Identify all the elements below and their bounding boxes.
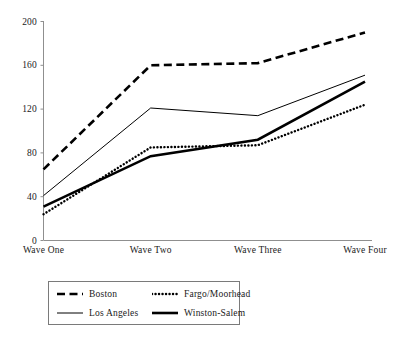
x-axis-tick-label: Wave Two (106, 245, 196, 256)
legend-entry-winston-salem: Winston-Salem (152, 306, 245, 320)
series-line-los-angeles (44, 75, 366, 195)
y-axis-tick-label: 120 (11, 104, 37, 114)
legend-swatch-icon (152, 307, 178, 319)
legend-entry-los-angeles: Los Angeles (57, 306, 138, 320)
data-series-layer (44, 32, 366, 214)
legend-swatch-icon (57, 307, 83, 319)
legend: BostonFargo/MoorheadLos AngelesWinston-S… (48, 281, 240, 325)
y-axis-tick-label: 160 (11, 60, 37, 70)
legend-label: Boston (89, 289, 117, 300)
legend-label: Fargo/Moorhead (184, 289, 250, 300)
y-axis-tick-label: 200 (11, 17, 37, 27)
legend-swatch-icon (57, 288, 83, 300)
legend-swatch-icon (152, 288, 178, 300)
y-axis-tick-label: 0 (11, 236, 37, 246)
x-axis-tick-label: Wave Three (213, 245, 303, 256)
line-chart-figure: 04080120160200 Wave OneWave TwoWave Thre… (0, 0, 405, 340)
y-axis-tick-label: 80 (11, 148, 37, 158)
x-axis-tick-label: Wave One (0, 245, 89, 256)
x-axis-tick-label: Wave Four (320, 245, 405, 256)
series-line-winston-salem (44, 82, 366, 207)
legend-entry-boston: Boston (57, 287, 117, 301)
y-axis-tick-label: 40 (11, 192, 37, 202)
legend-label: Los Angeles (89, 308, 138, 319)
legend-label: Winston-Salem (184, 308, 245, 319)
legend-entry-fargo-moorhead: Fargo/Moorhead (152, 287, 250, 301)
